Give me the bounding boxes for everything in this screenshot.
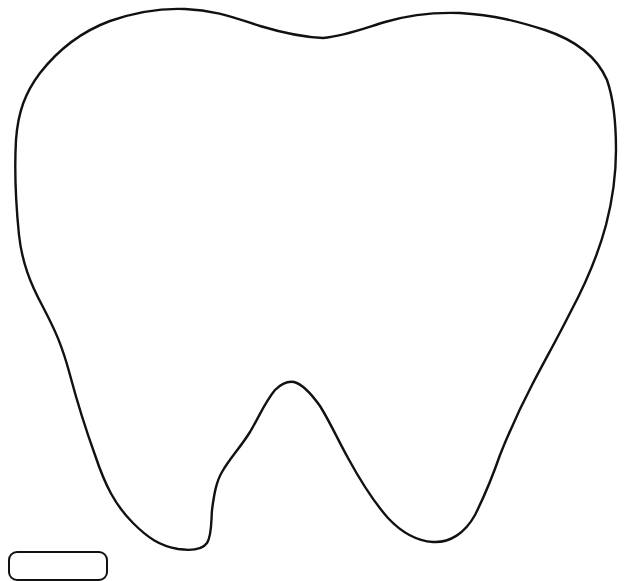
tooth-outline bbox=[15, 9, 616, 550]
label-box bbox=[8, 551, 108, 581]
